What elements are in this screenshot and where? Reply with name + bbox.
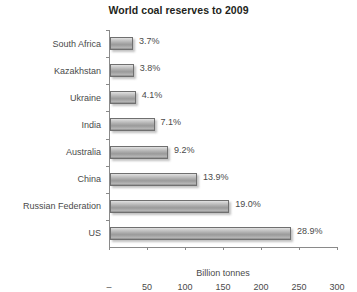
category-text: Russian Federation bbox=[23, 201, 105, 211]
x-axis-tick-label: – bbox=[106, 282, 111, 292]
x-axis-tick-label: 250 bbox=[291, 282, 306, 292]
bar-value-label: 3.8% bbox=[140, 63, 161, 73]
x-axis-tick bbox=[337, 247, 338, 250]
category-text: Kazakhstan bbox=[54, 66, 105, 76]
bar[interactable] bbox=[110, 118, 155, 131]
x-axis-tick-label: 300 bbox=[329, 282, 344, 292]
bar[interactable] bbox=[110, 227, 291, 240]
bar[interactable] bbox=[110, 146, 168, 159]
x-axis-title: Billion tonnes bbox=[109, 268, 337, 278]
category-text: Ukraine bbox=[70, 93, 105, 103]
category-text: US bbox=[88, 228, 105, 238]
y-axis-tick bbox=[106, 139, 109, 140]
chart-title: World coal reserves to 2009 bbox=[0, 4, 357, 16]
bar-row: 7.1% bbox=[109, 111, 337, 138]
y-axis-tick bbox=[106, 57, 109, 58]
x-axis-tick-label: 50 bbox=[142, 282, 152, 292]
bar-value-label: 28.9% bbox=[297, 226, 323, 236]
y-axis-category-label: Kazakhstan bbox=[0, 57, 105, 84]
bar-row: 28.9% bbox=[109, 220, 337, 247]
category-text: India bbox=[81, 120, 105, 130]
y-axis-tick bbox=[106, 166, 109, 167]
x-axis-tick-label: 150 bbox=[215, 282, 230, 292]
y-axis-tick bbox=[106, 30, 109, 31]
bar-row: 4.1% bbox=[109, 84, 337, 111]
category-text: China bbox=[77, 174, 105, 184]
y-axis-tick bbox=[106, 193, 109, 194]
x-axis-tick bbox=[147, 247, 148, 250]
y-axis-category-label: US bbox=[0, 220, 105, 247]
y-axis-category-label: South Africa bbox=[0, 30, 105, 57]
plot-area: 3.7%3.8%4.1%7.1%9.2%13.9%19.0%28.9% –501… bbox=[109, 30, 337, 247]
x-axis-tick bbox=[185, 247, 186, 250]
bar[interactable] bbox=[110, 91, 136, 104]
category-text: South Africa bbox=[52, 39, 105, 49]
category-text: Australia bbox=[66, 147, 105, 157]
bar-value-label: 19.0% bbox=[235, 199, 261, 209]
y-axis-category-label: Australia bbox=[0, 139, 105, 166]
y-axis-tick bbox=[106, 220, 109, 221]
x-axis-tick-label: 100 bbox=[177, 282, 192, 292]
bar[interactable] bbox=[110, 200, 229, 213]
y-axis-category-label: China bbox=[0, 166, 105, 193]
y-axis-tick bbox=[106, 84, 109, 85]
bar[interactable] bbox=[110, 173, 197, 186]
bar-value-label: 9.2% bbox=[174, 145, 195, 155]
bar-row: 9.2% bbox=[109, 139, 337, 166]
y-axis-labels: South AfricaKazakhstanUkraineIndiaAustra… bbox=[0, 30, 105, 247]
bar-value-label: 4.1% bbox=[142, 90, 163, 100]
y-axis-tick bbox=[106, 111, 109, 112]
bar-row: 19.0% bbox=[109, 193, 337, 220]
bar-row: 3.7% bbox=[109, 30, 337, 57]
bar-value-label: 7.1% bbox=[161, 117, 182, 127]
x-axis-tick bbox=[109, 247, 110, 250]
y-axis-category-label: Ukraine bbox=[0, 84, 105, 111]
bar-value-label: 3.7% bbox=[139, 36, 160, 46]
bar-row: 3.8% bbox=[109, 57, 337, 84]
bar-value-label: 13.9% bbox=[203, 172, 229, 182]
x-axis-tick bbox=[261, 247, 262, 250]
x-axis-tick bbox=[299, 247, 300, 250]
y-axis-category-label: Russian Federation bbox=[0, 193, 105, 220]
y-axis-category-label: India bbox=[0, 111, 105, 138]
bar[interactable] bbox=[110, 37, 133, 50]
x-axis-tick bbox=[223, 247, 224, 250]
bar[interactable] bbox=[110, 64, 134, 77]
bar-row: 13.9% bbox=[109, 166, 337, 193]
x-axis-tick-label: 200 bbox=[253, 282, 268, 292]
